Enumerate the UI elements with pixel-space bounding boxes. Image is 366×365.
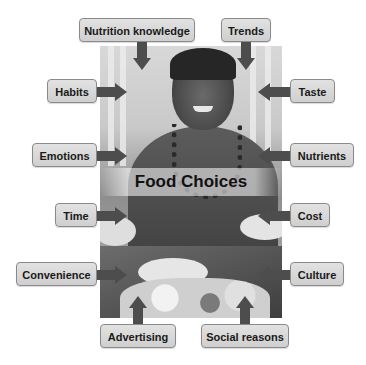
arrow-left-icon: [270, 270, 290, 280]
arrow-down-icon: [137, 42, 147, 58]
arrow-down-icon: [237, 58, 255, 70]
factor-trends: Trends: [221, 18, 271, 42]
arrow-right-icon: [115, 83, 127, 101]
arrow-up-icon: [236, 296, 254, 308]
factor-culture: Culture: [290, 262, 344, 286]
center-photo: Food Choices: [100, 46, 282, 318]
factor-social-reasons: Social reasons: [201, 324, 289, 348]
factor-cost: Cost: [290, 203, 330, 227]
arrow-up-icon: [129, 296, 147, 308]
arrow-right-icon: [115, 147, 127, 165]
photo-smile: [193, 106, 213, 112]
arrow-left-icon: [258, 207, 270, 225]
factor-habits: Habits: [47, 79, 97, 103]
factor-taste: Taste: [290, 79, 335, 103]
arrow-right-icon: [97, 87, 115, 97]
arrow-right-icon: [97, 211, 115, 221]
arrow-down-icon: [133, 58, 151, 70]
arrow-right-icon: [115, 207, 127, 225]
factor-emotions: Emotions: [32, 143, 97, 167]
factor-convenience: Convenience: [16, 262, 97, 286]
arrow-down-icon: [241, 42, 251, 58]
factor-advertising: Advertising: [100, 324, 176, 348]
arrow-right-icon: [97, 151, 115, 161]
photo-person-hair: [170, 48, 236, 80]
factor-nutrition-knowledge: Nutrition knowledge: [79, 18, 195, 42]
arrow-left-icon: [270, 211, 290, 221]
arrow-up-icon: [240, 308, 250, 324]
arrow-left-icon: [258, 147, 270, 165]
arrow-left-icon: [258, 83, 270, 101]
factor-nutrients: Nutrients: [290, 143, 354, 167]
photo-background: [108, 46, 114, 166]
arrow-left-icon: [258, 266, 270, 284]
arrow-right-icon: [115, 266, 127, 284]
arrow-left-icon: [270, 151, 290, 161]
arrow-left-icon: [270, 87, 290, 97]
arrow-up-icon: [133, 308, 143, 324]
factor-time: Time: [55, 203, 97, 227]
arrow-right-icon: [97, 270, 115, 280]
center-label: Food Choices: [100, 168, 282, 196]
